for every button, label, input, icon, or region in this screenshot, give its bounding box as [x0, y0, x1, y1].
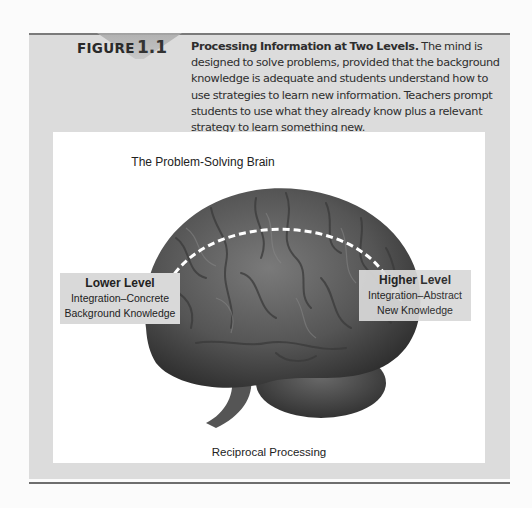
figure-number: 1.1 [137, 37, 167, 57]
bottom-rule [29, 482, 510, 484]
higher-level-label: Higher Level Integration–Abstract New Kn… [359, 270, 471, 321]
lower-level-line2: Background Knowledge [64, 306, 176, 321]
higher-level-line1: Integration–Abstract [363, 288, 467, 303]
figure-caption: Processing Information at Two Levels. Th… [191, 39, 503, 136]
higher-level-title: Higher Level [363, 273, 467, 288]
caption-body: The mind is designed to solve problems, … [191, 40, 500, 134]
diagram-area: The Problem-Solving Brain [53, 132, 485, 463]
lower-level-line1: Integration–Concrete [64, 291, 176, 306]
diagram-title: The Problem-Solving Brain [53, 155, 353, 169]
caption-title: Processing Information at Two Levels. [191, 40, 419, 53]
lower-level-title: Lower Level [64, 276, 176, 291]
higher-level-line2: New Knowledge [363, 303, 467, 318]
diagram-footer: Reciprocal Processing [53, 446, 485, 458]
figure-panel: FIGURE 1.1 Processing Information at Two… [29, 33, 510, 479]
figure-label: FIGURE [77, 40, 135, 56]
lower-level-label: Lower Level Integration–Concrete Backgro… [60, 273, 180, 324]
